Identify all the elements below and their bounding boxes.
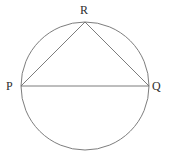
geometry-canvas xyxy=(0,0,173,160)
chord-segment-rq xyxy=(85,22,149,86)
chord-segment-pr xyxy=(21,22,85,86)
geometry-figure: P Q R xyxy=(0,0,173,160)
vertex-label-r: R xyxy=(80,4,88,16)
vertex-label-q: Q xyxy=(152,80,161,92)
vertex-label-p: P xyxy=(6,80,13,92)
